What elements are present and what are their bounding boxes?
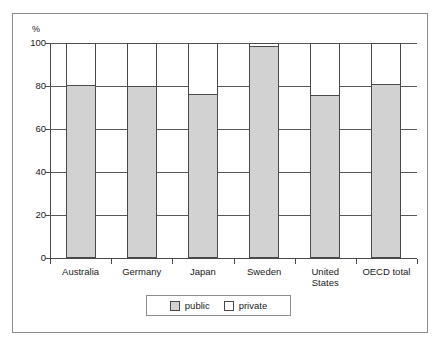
plot-area — [50, 43, 417, 258]
legend-entry-public[interactable]: public — [170, 301, 210, 311]
x-axis-label-japan: Japan — [172, 266, 233, 277]
x-label-line: OECD total — [356, 266, 417, 277]
bar-segment-public — [372, 84, 400, 257]
x-label-line: Sweden — [234, 266, 295, 277]
bar-segment-public — [311, 95, 339, 257]
bar-column — [188, 43, 218, 258]
x-axis-label-united-states: UnitedStates — [295, 266, 356, 288]
bar-column — [249, 43, 279, 258]
x-tick-mark — [417, 259, 418, 264]
x-tick-mark — [50, 259, 51, 264]
bar-column — [310, 43, 340, 258]
bar-column — [371, 43, 401, 258]
gridline-100 — [50, 43, 417, 44]
legend-entry-private[interactable]: private — [224, 301, 268, 311]
bar-segment-public — [128, 86, 156, 257]
y-axis-unit-label: % — [32, 24, 40, 34]
legend-label-public: public — [185, 301, 210, 311]
y-tick-label-40: 40 — [20, 167, 46, 177]
bar-column — [127, 43, 157, 258]
y-tick-label-100: 100 — [20, 38, 46, 48]
x-label-line: Germany — [111, 266, 172, 277]
bar-segment-public — [189, 94, 217, 257]
x-label-line: Japan — [172, 266, 233, 277]
bar-segment-public — [67, 85, 95, 257]
x-label-line: United — [295, 266, 356, 277]
x-axis-label-australia: Australia — [50, 266, 111, 277]
x-label-line: Australia — [50, 266, 111, 277]
chart-figure: % 100806040200 AustraliaGermanyJapanSwed… — [0, 0, 441, 345]
y-tick-label-80: 80 — [20, 81, 46, 91]
y-tick-label-20: 20 — [20, 210, 46, 220]
bar-segment-public — [250, 46, 278, 257]
y-tick-label-60: 60 — [20, 124, 46, 134]
y-tick-label-0: 0 — [20, 253, 46, 263]
chart-legend: publicprivate — [146, 295, 291, 316]
x-tick-mark — [172, 259, 173, 264]
x-axis-label-germany: Germany — [111, 266, 172, 277]
x-tick-mark — [295, 259, 296, 264]
x-tick-mark — [356, 259, 357, 264]
legend-swatch-private — [224, 301, 234, 311]
gridline-20 — [50, 215, 417, 216]
x-tick-mark — [111, 259, 112, 264]
x-label-line: States — [295, 277, 356, 288]
gridline-40 — [50, 172, 417, 173]
gridline-80 — [50, 86, 417, 87]
legend-label-private: private — [239, 301, 268, 311]
legend-swatch-public — [170, 301, 180, 311]
x-axis-label-oecd-total: OECD total — [356, 266, 417, 277]
x-axis-label-sweden: Sweden — [234, 266, 295, 277]
gridline-60 — [50, 129, 417, 130]
bar-column — [66, 43, 96, 258]
x-tick-mark — [234, 259, 235, 264]
